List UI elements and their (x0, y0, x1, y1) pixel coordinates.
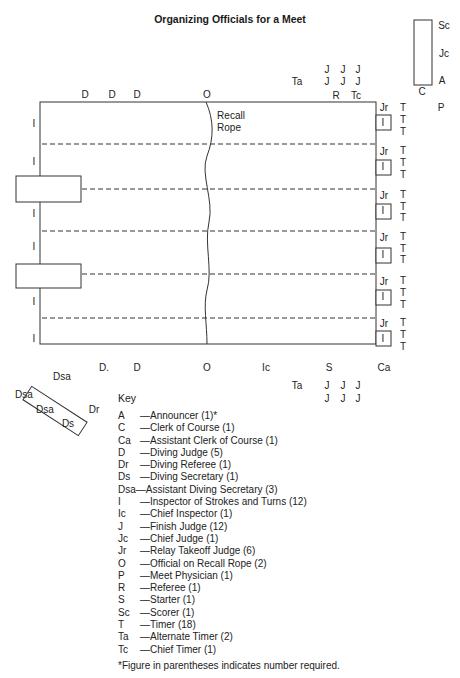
alternate-timer-top: Ta (292, 77, 303, 87)
inspector-left: I (33, 297, 36, 307)
timer: T (400, 244, 406, 254)
timer: T (400, 342, 406, 352)
finish-judge: J (341, 77, 346, 87)
legend-abbr: R (118, 582, 140, 594)
relay-takeoff-judge: Jr (380, 147, 388, 157)
inspector-left: I (33, 157, 36, 167)
diving-judge-bottom-1: D. (99, 363, 109, 373)
chief-judge: Jc (439, 49, 449, 59)
legend-row: Tc—Chief Timer (1) (118, 644, 340, 656)
scorer: Sc (438, 21, 450, 31)
legend-abbr: Jr (118, 545, 140, 557)
legend-desc: —Inspector of Strokes and Turns (12) (140, 496, 307, 507)
legend-row: Sc—Scorer (1) (118, 607, 340, 619)
clerk-of-course: C (418, 87, 425, 97)
legend-abbr: Ds (118, 471, 140, 483)
finish-judge: J (341, 65, 346, 75)
legend-desc: —Finish Judge (12) (140, 521, 227, 532)
legend-desc: —Announcer (1)* (140, 410, 217, 421)
legend-desc: —Diving Secretary (1) (140, 471, 238, 482)
finish-judge: J (341, 394, 346, 404)
timer: T (400, 115, 406, 125)
legend-abbr: I (118, 496, 140, 508)
legend-abbr: T (118, 619, 140, 631)
meet-physician: P (438, 103, 445, 113)
chief-timer: Tc (351, 91, 361, 101)
legend-row: Ta—Alternate Timer (2) (118, 631, 340, 643)
legend-abbr: P (118, 570, 140, 582)
inspector-left: I (33, 209, 36, 219)
recall-official-bottom: O (203, 363, 211, 373)
legend-desc: —Starter (1) (140, 594, 195, 605)
legend-desc: —Referee (1) (140, 582, 201, 593)
diving-judge-bottom-2: D (133, 363, 140, 373)
inspector-right: I (382, 118, 385, 128)
legend-footnote: *Figure in parentheses indicates number … (118, 660, 340, 671)
finish-judge: J (341, 381, 346, 391)
legend-row: A—Announcer (1)* (118, 410, 340, 422)
diving-judge-top-1: D (81, 90, 88, 100)
finish-judge: J (325, 65, 330, 75)
legend-abbr: Dr (118, 459, 140, 471)
starter: S (326, 363, 333, 373)
legend-abbr: Sc (118, 607, 140, 619)
legend: Key A—Announcer (1)* C—Clerk of Course (… (118, 392, 340, 671)
timer: T (400, 288, 406, 298)
relay-takeoff-judge: Jr (380, 191, 388, 201)
legend-desc: —Relay Takeoff Judge (6) (140, 545, 255, 556)
legend-desc: —Meet Physician (1) (140, 570, 233, 581)
asst-diving-secretary: Dsa (53, 372, 71, 382)
legend-desc: —Diving Judge (5) (140, 447, 223, 458)
legend-row: Jc—Chief Judge (1) (118, 533, 340, 545)
legend-desc: —Scorer (1) (140, 607, 194, 618)
finish-judge: J (356, 381, 361, 391)
recall-official-top: O (203, 90, 211, 100)
legend-row: Ca—Assistant Clerk of Course (1) (118, 435, 340, 447)
timer: T (400, 255, 406, 265)
legend-desc: —Chief Judge (1) (140, 533, 218, 544)
timer: T (400, 318, 406, 328)
legend-desc: —Assistant Diving Secretary (3) (136, 484, 278, 495)
announcer: A (439, 76, 446, 86)
referee: R (332, 91, 339, 101)
legend-desc: —Official on Recall Rope (2) (140, 558, 267, 569)
legend-row: S—Starter (1) (118, 594, 340, 606)
diving-judge-top-3: D (133, 90, 140, 100)
finish-judge: J (356, 65, 361, 75)
timer: T (400, 300, 406, 310)
legend-row: R—Referee (1) (118, 582, 340, 594)
diving-secretary: Ds (62, 419, 74, 429)
relay-takeoff-judge: Jr (380, 103, 388, 113)
legend-abbr: D (118, 447, 140, 459)
legend-abbr: Dsa (118, 484, 136, 496)
timer: T (400, 103, 406, 113)
timer: T (400, 232, 406, 242)
legend-row: Ds—Diving Secretary (1) (118, 471, 340, 483)
legend-row: Ic—Chief Inspector (1) (118, 508, 340, 520)
legend-row: Dsa—Assistant Diving Secretary (3) (118, 484, 340, 496)
legend-row: O—Official on Recall Rope (2) (118, 558, 340, 570)
relay-takeoff-judge: Jr (380, 319, 388, 329)
inspector-right: I (382, 206, 385, 216)
alternate-timer-bottom: Ta (292, 381, 303, 391)
legend-row: J—Finish Judge (12) (118, 521, 340, 533)
timer: T (400, 146, 406, 156)
legend-abbr: Ta (118, 631, 140, 643)
legend-row: I—Inspector of Strokes and Turns (12) (118, 496, 340, 508)
relay-takeoff-judge: Jr (380, 233, 388, 243)
legend-row: D—Diving Judge (5) (118, 447, 340, 459)
legend-abbr: O (118, 558, 140, 570)
assistant-clerk: Ca (378, 363, 391, 373)
legend-abbr: C (118, 422, 140, 434)
legend-row: Dr—Diving Referee (1) (118, 459, 340, 471)
finish-judge: J (325, 77, 330, 87)
inspector-left: I (33, 119, 36, 129)
legend-desc: —Alternate Timer (2) (140, 631, 233, 642)
timer: T (400, 213, 406, 223)
inspector-right: I (382, 162, 385, 172)
diving-judge-top-2: D (108, 90, 115, 100)
inspector-right: I (382, 292, 385, 302)
legend-abbr: A (118, 410, 140, 422)
legend-row: P—Meet Physician (1) (118, 570, 340, 582)
timer: T (400, 127, 406, 137)
